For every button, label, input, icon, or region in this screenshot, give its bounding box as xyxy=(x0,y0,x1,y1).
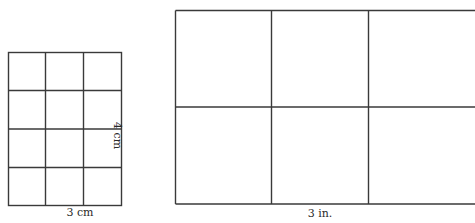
height-label-cm: 4 cm xyxy=(111,122,124,149)
width-label-in: 3 in. xyxy=(290,207,350,220)
width-label-cm: 3 cm xyxy=(50,206,110,219)
centimeter-grid xyxy=(8,52,122,206)
inch-grid-lines xyxy=(175,10,475,206)
inch-grid xyxy=(175,10,475,206)
centimeter-grid-lines xyxy=(8,52,122,206)
